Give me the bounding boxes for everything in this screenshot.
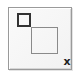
small-window-square-icon xyxy=(17,13,31,27)
large-window-square-icon xyxy=(31,27,58,54)
close-icon: x xyxy=(62,56,72,68)
